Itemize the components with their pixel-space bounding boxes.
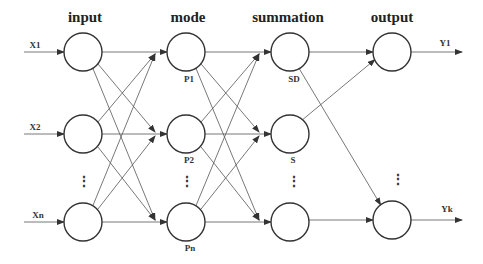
output-node-y1 <box>373 33 411 71</box>
edge-sd-yk <box>300 69 381 205</box>
edge-l1-2-0 <box>196 54 259 206</box>
mode-label-pn: Pn <box>185 243 196 253</box>
layer-title-summation: summation <box>252 9 324 25</box>
mode-label-p2: P2 <box>184 155 194 165</box>
mode-label-p1: P1 <box>184 74 194 84</box>
output-node-yk <box>373 201 411 239</box>
edge-l1-1-0 <box>201 54 259 122</box>
summation-label-sd: SD <box>288 74 300 84</box>
mode-ellipsis: ⋮ <box>180 174 194 189</box>
summation-node-2 <box>271 203 309 241</box>
nodes <box>64 33 411 241</box>
input-node-1 <box>64 115 102 153</box>
input-label-x1: X1 <box>30 40 41 50</box>
output-ellipsis: ⋮ <box>391 172 405 187</box>
mode-node-0 <box>167 33 205 71</box>
layer-title-output: output <box>371 9 414 25</box>
input-node-2 <box>64 203 102 241</box>
edge-l0-1-0 <box>98 54 155 122</box>
layer-title-input: input <box>68 9 102 25</box>
summation-node-1 <box>271 115 309 153</box>
input-label-x2: X2 <box>30 122 41 132</box>
mode-node-1 <box>167 115 205 153</box>
summation-ellipsis: ⋮ <box>287 174 301 189</box>
layer-title-mode: mode <box>171 9 206 25</box>
input-node-0 <box>64 33 102 71</box>
mode-node-2 <box>167 203 205 241</box>
summation-label-s: S <box>290 155 295 165</box>
summation-node-0 <box>271 33 309 71</box>
edge-l0-1-2 <box>97 146 155 220</box>
input-ellipsis: ⋮ <box>77 174 91 189</box>
output-label-y1: Y1 <box>440 38 451 48</box>
input-label-xn: Xn <box>32 210 44 220</box>
output-label-yk: Yk <box>441 204 453 214</box>
edge-l1-1-2 <box>201 146 259 220</box>
grnn-diagram: input mode summation output X1 X2 Xn P1 … <box>0 0 483 264</box>
